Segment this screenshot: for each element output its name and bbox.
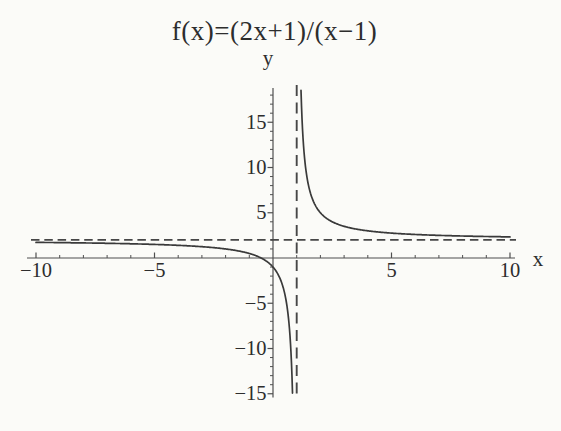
y-tick-label: −5 [245, 292, 267, 314]
x-tick-label: −10 [20, 259, 52, 281]
function-curve-right-branch [301, 90, 510, 237]
plot-canvas: −10−551015105−5−10−15 [0, 0, 561, 431]
y-tick-label: −10 [234, 337, 266, 359]
x-tick-label: 10 [500, 259, 521, 281]
x-tick-label: 5 [386, 259, 396, 281]
y-tick-label: 15 [246, 111, 267, 133]
y-tick-label: 5 [256, 201, 266, 223]
x-tick-label: −5 [144, 259, 166, 281]
function-plot-figure: f(x)=(2x+1)/(x−1) y x −10−551015105−5−10… [0, 0, 561, 431]
y-tick-label: 10 [246, 156, 267, 178]
y-tick-label: −15 [234, 382, 266, 404]
